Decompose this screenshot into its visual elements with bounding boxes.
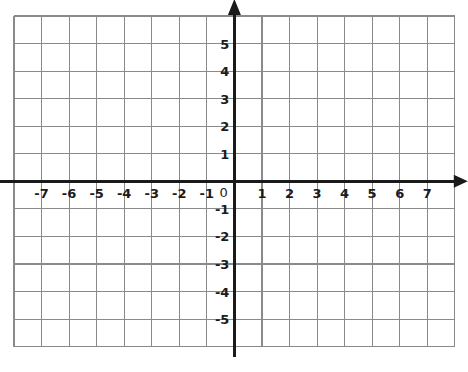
y-tick-label: 3 [207, 93, 229, 106]
x-tick-label: -3 [139, 187, 165, 200]
y-tick-label: -4 [207, 286, 229, 299]
x-axis-arrowhead [454, 175, 468, 188]
y-axis-arrowhead [228, 0, 241, 15]
x-tick-label: -5 [84, 187, 110, 200]
x-tick-label: -1 [194, 187, 220, 200]
y-tick-label: -3 [207, 258, 229, 271]
y-tick-label: 1 [207, 148, 229, 161]
y-tick-label: -2 [207, 230, 229, 243]
x-tick-label: 3 [304, 187, 330, 200]
axis-lines [0, 0, 468, 357]
y-tick-label: 4 [207, 65, 229, 78]
x-tick-label: 7 [414, 187, 440, 200]
origin-label: 0 [219, 186, 227, 199]
x-tick-label: 4 [332, 187, 358, 200]
x-tick-label: -2 [166, 187, 192, 200]
x-tick-label: 1 [249, 187, 275, 200]
x-tick-label: -6 [56, 187, 82, 200]
x-tick-label: 6 [387, 187, 413, 200]
x-tick-label: -4 [111, 187, 137, 200]
coordinate-plane-figure: -7-6-5-4-3-2-11234567 54321-1-2-3-4-5 0 [0, 0, 468, 372]
x-tick-label: -7 [29, 187, 55, 200]
y-tick-label: 5 [207, 38, 229, 51]
y-tick-label: -1 [207, 203, 229, 216]
x-tick-label: 5 [359, 187, 385, 200]
y-tick-label: 2 [207, 120, 229, 133]
y-tick-label: -5 [207, 313, 229, 326]
x-tick-label: 2 [277, 187, 303, 200]
